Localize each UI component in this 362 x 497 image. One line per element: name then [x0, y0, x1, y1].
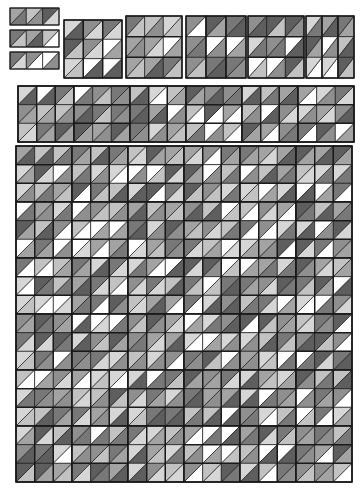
tiling-canvas [0, 0, 362, 497]
tiling-figure [0, 0, 362, 497]
